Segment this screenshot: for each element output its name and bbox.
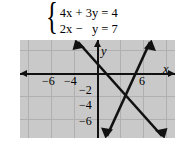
equation-row-1: 4x + 3y = 4 [60,5,118,21]
graph-figure: { 4x + 3y = 4 2x − y = 7 [0,0,182,145]
left-brace: { [46,0,58,40]
x-tick-label--6: −6 [42,74,55,89]
equation-row-2: 2x − y = 7 [60,21,118,37]
system-of-equations: { 4x + 3y = 4 2x − y = 7 [44,2,118,38]
x-axis-label: x [163,62,169,77]
y-axis-top-arrow [94,40,101,47]
x-axis-left-arrow [20,70,27,77]
y-tick-label--6: −6 [79,114,92,129]
equations-list: 4x + 3y = 4 2x − y = 7 [60,2,118,38]
x-tick-label--4: −4 [64,74,77,89]
y-tick-label--2: −2 [79,83,92,98]
graph-panel: −6 −4 6 −2 −4 −6 y x [20,40,175,138]
line-2x-y-7 [107,42,150,136]
y-axis-label: y [101,44,107,59]
x-axis-right-arrow [168,70,175,77]
plot-lines [20,40,175,138]
x-tick-label-6: 6 [139,74,145,89]
y-tick-label--4: −4 [79,98,92,113]
